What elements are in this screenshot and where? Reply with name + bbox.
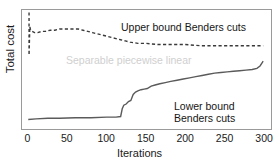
x-tick-250: 250 — [216, 132, 234, 144]
y-axis-label: Total cost — [4, 13, 16, 85]
x-axis-label: Iterations — [0, 147, 279, 159]
x-tick-0: 0 — [24, 132, 30, 144]
x-axis-tick-labels: 050100150200250300 — [21, 132, 272, 146]
annotation-upper-bound: Upper bound Benders cuts — [121, 22, 246, 34]
upper-bound-series — [29, 12, 263, 55]
annotation-lower-bound: Lower bound Benders cuts — [174, 101, 235, 124]
x-tick-50: 50 — [61, 132, 73, 144]
plot-area: Upper bound Benders cuts Separable piece… — [21, 9, 272, 130]
chart-figure: number of customers. Upper bound Benders… — [0, 0, 279, 164]
annotation-lower-bound-line2: Benders cuts — [174, 113, 235, 125]
annotation-lower-bound-line1: Lower bound — [174, 101, 235, 113]
annotation-separable-piecewise-linear: Separable piecewise linear — [66, 55, 192, 67]
x-tick-200: 200 — [176, 132, 194, 144]
x-tick-100: 100 — [97, 132, 115, 144]
x-tick-150: 150 — [137, 132, 155, 144]
x-tick-300: 300 — [255, 132, 273, 144]
